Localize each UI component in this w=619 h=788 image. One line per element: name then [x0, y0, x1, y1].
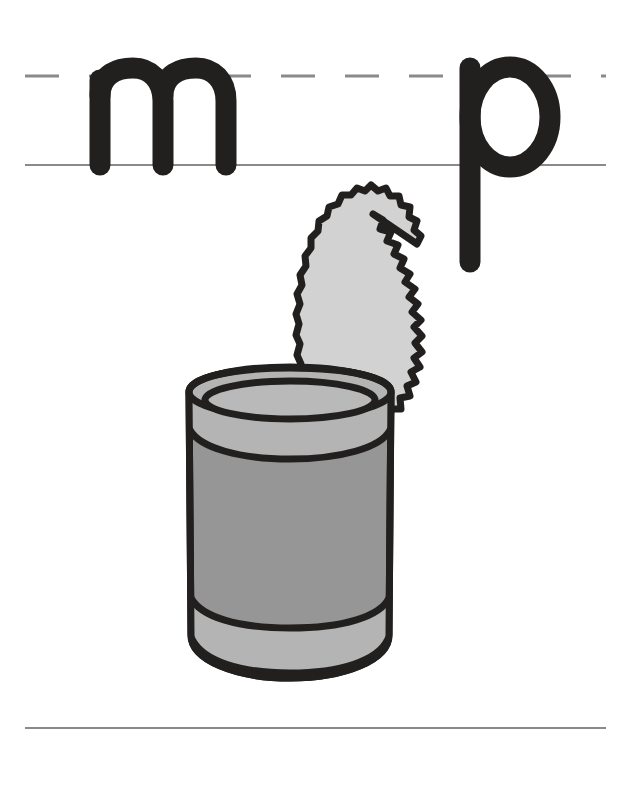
can-illustration	[189, 185, 422, 678]
letter-m-glyph	[100, 68, 226, 165]
can-body	[189, 367, 391, 678]
worksheet-page: m p can An opened tin can with the jagge…	[0, 0, 619, 788]
worksheet-canvas	[0, 0, 619, 788]
letter-p-glyph	[470, 67, 550, 262]
